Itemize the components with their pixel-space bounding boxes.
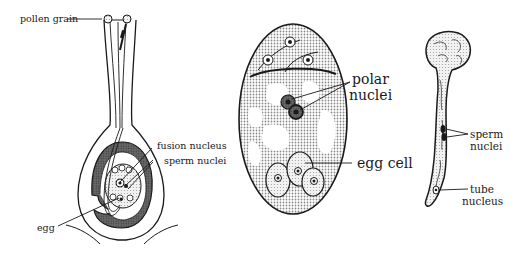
pollen-grain-icon — [104, 15, 112, 23]
embryo-sac-figure: polar nuclei egg cell — [239, 24, 413, 214]
label-egg: egg — [37, 222, 55, 233]
diagram-canvas: pollen grain fusion nucleus sperm nuclei… — [0, 0, 526, 257]
pollen-tube-figure: sperm nuclei tube nucleus — [425, 31, 503, 207]
pollen-grain-icon — [123, 15, 131, 23]
label-sperm-nuclei-line1: sperm — [470, 128, 503, 140]
label-tube-nucleus-line1: tube — [470, 183, 494, 195]
sperm-nucleus — [442, 133, 447, 141]
pollen-tube-outline — [425, 31, 470, 206]
label-sperm-nuclei: sperm nuclei — [164, 155, 226, 166]
label-pollen-grain: pollen grain — [20, 13, 78, 24]
sperm-nucleus — [441, 125, 446, 133]
label-sperm-nuclei-line2: nuclei — [470, 140, 503, 152]
label-polar-nuclei-line2: nuclei — [349, 87, 393, 103]
label-tube-nucleus-line2: nucleus — [462, 195, 503, 207]
label-polar-nuclei-line1: polar — [352, 71, 389, 87]
label-egg-cell: egg cell — [357, 155, 413, 171]
label-fusion-nucleus: fusion nucleus — [157, 140, 227, 151]
pistil-figure: pollen grain fusion nucleus sperm nuclei… — [20, 13, 227, 244]
